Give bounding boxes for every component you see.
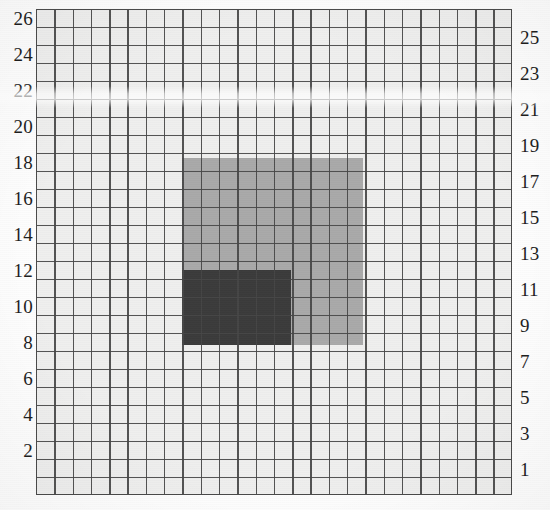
tick-right-21: 21 <box>520 100 540 119</box>
grid-paper-image: 2624222018161412108642 25232119171513119… <box>0 0 550 510</box>
tick-left-6: 6 <box>23 369 33 388</box>
tick-right-15: 15 <box>520 208 540 227</box>
tick-right-5: 5 <box>520 388 530 407</box>
tick-left-26: 26 <box>13 9 33 28</box>
tick-left-18: 18 <box>13 153 33 172</box>
grid-area <box>36 9 512 495</box>
tick-left-16: 16 <box>13 189 33 208</box>
tick-left-2: 2 <box>23 441 33 460</box>
tick-right-9: 9 <box>520 316 530 335</box>
tick-left-24: 24 <box>13 45 33 64</box>
tick-right-11: 11 <box>520 280 539 299</box>
tick-left-14: 14 <box>13 225 33 244</box>
tick-right-1: 1 <box>520 460 530 479</box>
tick-left-10: 10 <box>13 297 33 316</box>
tick-left-4: 4 <box>23 405 33 424</box>
tick-right-3: 3 <box>520 424 530 443</box>
tick-right-23: 23 <box>520 64 540 83</box>
tick-right-25: 25 <box>520 28 540 47</box>
tick-right-7: 7 <box>520 352 530 371</box>
tick-left-20: 20 <box>13 117 33 136</box>
tick-left-8: 8 <box>23 333 33 352</box>
tick-right-19: 19 <box>520 136 540 155</box>
left-axis-labels: 2624222018161412108642 <box>0 0 36 510</box>
inner-dark-region <box>182 270 291 345</box>
right-axis-labels: 252321191715131197531 <box>514 0 550 510</box>
tick-left-22: 22 <box>13 81 33 100</box>
tick-left-12: 12 <box>13 261 33 280</box>
tick-right-13: 13 <box>520 244 540 263</box>
tick-right-17: 17 <box>520 172 540 191</box>
